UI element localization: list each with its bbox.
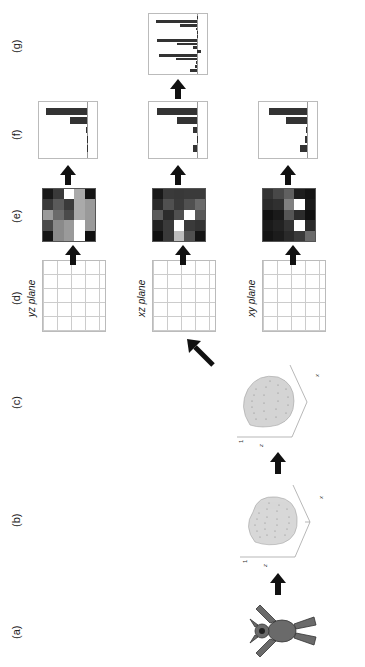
histogram-bar [157, 108, 198, 115]
heatmap-cell [284, 220, 294, 230]
heatmap-cell [53, 210, 63, 220]
histogram-bar [197, 16, 198, 19]
heatmap-cell [85, 199, 95, 209]
heatmap-cell [85, 189, 95, 199]
x-label-b: x [318, 496, 324, 499]
arrow-e-to-f-yz [60, 165, 80, 185]
label-b: (b) [10, 514, 22, 527]
heatmap-cell [273, 210, 283, 220]
heatmap-cell [85, 231, 95, 241]
z-tick-1-c: 1 [238, 440, 244, 443]
histogram-bar [193, 46, 198, 49]
heatmap-cell [64, 231, 74, 241]
heatmap-cell [74, 220, 84, 230]
histogram-bar [156, 20, 198, 23]
heatmap-cell [163, 231, 173, 241]
heatmap-cell [64, 189, 74, 199]
heatmap-cell [163, 210, 173, 220]
heatmap-cell [184, 231, 194, 241]
heatmap-cell [263, 210, 273, 220]
zero-line [307, 102, 308, 158]
heatmap-cell [53, 199, 63, 209]
heatmap-yz [42, 188, 96, 242]
heatmap-cell [195, 220, 205, 230]
heatmap-xz [152, 188, 206, 242]
point-cloud-b [235, 477, 325, 567]
histogram-bar [306, 127, 307, 134]
heatmap-cell [305, 189, 315, 199]
heatmap-cell [294, 189, 304, 199]
heatmap-cell [184, 210, 194, 220]
histogram-bar [86, 127, 87, 134]
heatmap-cell [153, 231, 163, 241]
point-cloud-c [232, 357, 322, 447]
heatmap-cell [174, 199, 184, 209]
z-label-c: z [258, 444, 264, 447]
xz-plane-projection [152, 260, 216, 332]
histogram-bar [190, 69, 198, 72]
histogram-bar [196, 61, 197, 64]
zero-line [197, 14, 198, 74]
heatmap-cell [284, 189, 294, 199]
arrow-c-to-xy [185, 337, 219, 367]
label-f: (f) [10, 130, 22, 140]
heatmap-cell [184, 199, 194, 209]
heatmap-cell [64, 210, 74, 220]
heatmap-cell [284, 199, 294, 209]
heatmap-cell [85, 220, 95, 230]
heatmap-cell [43, 231, 53, 241]
heatmap-cell [64, 220, 74, 230]
heatmap-cell [273, 189, 283, 199]
heatmap-cell [184, 189, 194, 199]
histogram-bar [87, 136, 88, 143]
z-label-b: z [262, 564, 268, 567]
heatmap-cell [53, 231, 63, 241]
histogram-bar [70, 117, 87, 124]
histogram-bar [197, 50, 201, 53]
heatmap-cell [153, 210, 163, 220]
heatmap-cell [184, 220, 194, 230]
heatmap-cell [43, 210, 53, 220]
histogram-bar [197, 35, 198, 38]
heatmap-cell [263, 189, 273, 199]
heatmap-cell [305, 199, 315, 209]
heatmap-cell [273, 231, 283, 241]
figure: 1 z x 1 z x xy plane xz plane yz [0, 0, 365, 667]
x-label-c: x [314, 374, 320, 377]
histogram-bar [197, 31, 198, 34]
xy-plane-label: xy plane [246, 280, 257, 317]
heatmap-cell [195, 189, 205, 199]
label-c: (c) [10, 396, 22, 409]
histogram-xz [148, 101, 208, 159]
heatmap-cell [195, 199, 205, 209]
histogram-bar [193, 127, 198, 134]
heatmap-cell [263, 231, 273, 241]
arrow-b-to-c [270, 452, 290, 474]
histogram-bar [176, 58, 197, 61]
heatmap-cell [284, 210, 294, 220]
xy-plane-projection [262, 260, 326, 332]
histogram-bar [159, 54, 198, 57]
heatmap-cell [163, 220, 173, 230]
histogram-concatenated [148, 13, 208, 75]
heatmap-cell [43, 189, 53, 199]
z-tick-1-b: 1 [242, 560, 248, 563]
heatmap-cell [263, 220, 273, 230]
histogram-bar [177, 117, 197, 124]
label-d: (d) [10, 292, 22, 305]
histogram-bar [46, 108, 88, 115]
heatmap-cell [305, 210, 315, 220]
heatmap-cell [53, 220, 63, 230]
heatmap-cell [74, 231, 84, 241]
histogram-bar [305, 136, 307, 143]
armadillo-model [248, 601, 320, 661]
yz-plane-projection [42, 260, 106, 332]
heatmap-cell [294, 220, 304, 230]
heatmap-cell [153, 189, 163, 199]
heatmap-cell [85, 210, 95, 220]
zero-line [197, 102, 198, 158]
label-a: (a) [10, 626, 22, 639]
heatmap-cell [74, 210, 84, 220]
arrow-e-to-f-xz [170, 165, 190, 185]
heatmap-cell [163, 199, 173, 209]
